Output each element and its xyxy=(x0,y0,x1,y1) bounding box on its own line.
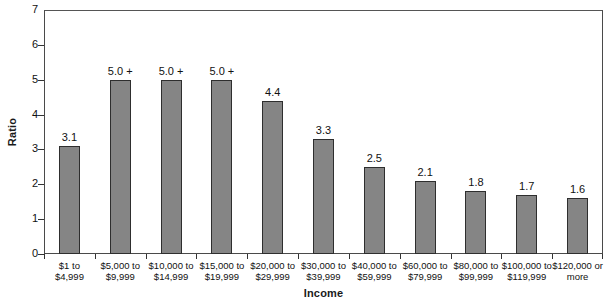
x-axis-category-label-line2: $39,999 xyxy=(298,271,349,282)
x-axis-title: Income xyxy=(44,287,603,299)
bar xyxy=(567,198,588,254)
x-axis-category-label-line2: $9,999 xyxy=(95,271,146,282)
bar xyxy=(313,139,334,254)
x-axis-category-label-line2: $19,999 xyxy=(196,271,247,282)
bar-group: 3.1 xyxy=(44,10,95,254)
bar-value-label: 2.5 xyxy=(346,152,402,164)
y-axis-tick-label: 0 xyxy=(16,248,38,259)
x-axis-category-label-line2: $4,999 xyxy=(44,271,95,282)
x-axis-category-label-line1: $5,000 to xyxy=(95,260,146,271)
x-axis-tick-mark xyxy=(451,254,452,259)
x-axis-category-label-line1: $80,000 to xyxy=(451,260,502,271)
x-axis-tick-mark xyxy=(552,254,553,259)
bar-group: 1.7 xyxy=(501,10,552,254)
bars-layer: 3.15.0 +5.0 +5.0 +4.43.32.52.11.81.71.6 xyxy=(44,10,603,254)
bar-value-label: 3.3 xyxy=(295,124,351,136)
x-axis-category-label-line2: $14,999 xyxy=(146,271,197,282)
y-axis-tick-label: 6 xyxy=(16,39,38,50)
x-axis-tick-mark xyxy=(602,254,603,259)
x-axis-category-label-line2: $79,999 xyxy=(400,271,451,282)
bar-group: 2.5 xyxy=(349,10,400,254)
x-axis-category-label-line1: $30,000 to xyxy=(298,260,349,271)
bar-value-label: 4.4 xyxy=(245,86,301,98)
y-axis-tick-label: 3 xyxy=(16,143,38,154)
bar-group: 5.0 + xyxy=(196,10,247,254)
x-axis-category-label-line2: $29,999 xyxy=(247,271,298,282)
y-axis-tick-labels: 01234567 xyxy=(12,0,38,306)
bar xyxy=(161,80,182,254)
x-axis-category-label-line1: $120,000 or xyxy=(552,260,603,271)
y-axis-tick-label: 1 xyxy=(16,213,38,224)
bar-chart: Ratio 01234567 3.15.0 +5.0 +5.0 +4.43.32… xyxy=(0,0,611,306)
x-axis-tick-mark xyxy=(298,254,299,259)
x-axis-category-label: $20,000 to$29,999 xyxy=(247,260,298,282)
x-axis-category-label-line2: $59,999 xyxy=(349,271,400,282)
x-axis-tick-mark xyxy=(146,254,147,259)
x-axis-tick-mark xyxy=(400,254,401,259)
bar xyxy=(262,101,283,254)
bar-value-label: 2.1 xyxy=(397,166,453,178)
x-axis-category-label: $100,000 to$119,999 xyxy=(501,260,552,282)
x-axis-tick-mark xyxy=(95,254,96,259)
x-axis-tick-marks xyxy=(44,254,603,259)
y-axis-tick-label: 5 xyxy=(16,74,38,85)
x-axis-tick-mark xyxy=(44,254,45,259)
x-axis-tick-labels: $1 to$4,999$5,000 to$9,999$10,000 to$14,… xyxy=(44,260,603,288)
bar-group: 5.0 + xyxy=(95,10,146,254)
bar xyxy=(516,195,537,254)
x-axis-category-label-line1: $15,000 to xyxy=(196,260,247,271)
x-axis-category-label: $120,000 ormore xyxy=(552,260,603,282)
x-axis-category-label: $30,000 to$39,999 xyxy=(298,260,349,282)
bar xyxy=(59,146,80,254)
bar-value-label: 5.0 + xyxy=(194,65,250,77)
bar-value-label: 1.6 xyxy=(550,183,606,195)
bar-value-label: 3.1 xyxy=(41,131,97,143)
x-axis-category-label: $10,000 to$14,999 xyxy=(146,260,197,282)
x-axis-tick-mark xyxy=(501,254,502,259)
x-axis-category-label: $60,000 to$79,999 xyxy=(400,260,451,282)
bar-value-label: 1.8 xyxy=(448,176,504,188)
bar-value-label: 5.0 + xyxy=(143,65,199,77)
y-axis-tick-label: 7 xyxy=(16,4,38,15)
bar-value-label: 1.7 xyxy=(499,180,555,192)
bar-group: 2.1 xyxy=(400,10,451,254)
bar xyxy=(211,80,232,254)
x-axis-category-label-line1: $10,000 to xyxy=(146,260,197,271)
x-axis-category-label-line1: $100,000 to xyxy=(501,260,552,271)
bar-group: 1.6 xyxy=(552,10,603,254)
bar-group: 1.8 xyxy=(451,10,502,254)
x-axis-category-label-line2: $119,999 xyxy=(501,271,552,282)
y-axis-tick-label: 4 xyxy=(16,109,38,120)
bar-group: 5.0 + xyxy=(146,10,197,254)
x-axis-tick-mark xyxy=(247,254,248,259)
x-axis-category-label-line1: $60,000 to xyxy=(400,260,451,271)
x-axis-tick-mark xyxy=(349,254,350,259)
bar-group: 3.3 xyxy=(298,10,349,254)
x-axis-category-label-line1: $1 to xyxy=(44,260,95,271)
x-axis-category-label: $80,000 to$99,999 xyxy=(451,260,502,282)
x-axis-category-label-line2: $99,999 xyxy=(451,271,502,282)
bar xyxy=(110,80,131,254)
bar xyxy=(465,191,486,254)
bar xyxy=(415,181,436,254)
x-axis-category-label: $5,000 to$9,999 xyxy=(95,260,146,282)
x-axis-category-label-line2: more xyxy=(552,271,603,282)
x-axis-category-label: $15,000 to$19,999 xyxy=(196,260,247,282)
x-axis-category-label-line1: $20,000 to xyxy=(247,260,298,271)
bar-value-label: 5.0 + xyxy=(92,65,148,77)
y-axis-tick-label: 2 xyxy=(16,178,38,189)
bar xyxy=(364,167,385,254)
x-axis-category-label: $1 to$4,999 xyxy=(44,260,95,282)
x-axis-tick-mark xyxy=(196,254,197,259)
x-axis-category-label-line1: $40,000 to xyxy=(349,260,400,271)
bar-group: 4.4 xyxy=(247,10,298,254)
x-axis-category-label: $40,000 to$59,999 xyxy=(349,260,400,282)
